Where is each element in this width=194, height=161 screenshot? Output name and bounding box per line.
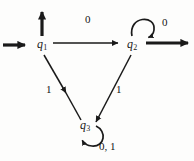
edge-label-q1-q2: 0 xyxy=(85,14,91,25)
state-q3-subscript: 3 xyxy=(86,124,90,133)
edge-label-q3-self: 0, 1 xyxy=(99,141,116,152)
state-q1-subscript: 1 xyxy=(43,43,47,52)
edge-label-q1-q3: 1 xyxy=(46,84,52,95)
fsm-diagram-figure: q1 q2 q3 0 0 1 1 0, 1 xyxy=(0,0,194,161)
state-label-q2: q2 xyxy=(127,38,137,52)
edge-label-q2-q3: 1 xyxy=(116,84,122,95)
edge-label-q2-self: 0 xyxy=(162,17,168,28)
state-label-q1: q1 xyxy=(37,38,47,52)
state-q2-subscript: 2 xyxy=(133,43,137,52)
state-label-q3: q3 xyxy=(80,119,90,133)
self-loop-q2 xyxy=(132,19,154,37)
transition-q2-q3 xyxy=(96,55,131,122)
